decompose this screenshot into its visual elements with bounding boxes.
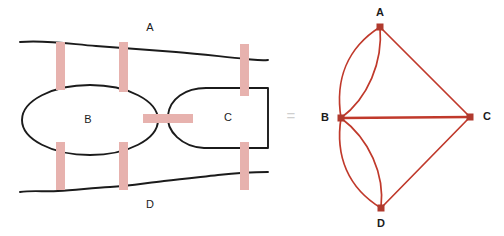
graph-vertex-a xyxy=(377,24,383,30)
bridge-a-b-east xyxy=(119,42,128,92)
graph-label-d: D xyxy=(377,217,385,229)
konigsberg-figure: A B C D = A xyxy=(0,0,504,236)
bridge-a-b-west xyxy=(56,42,65,90)
map-label-a: A xyxy=(146,21,154,33)
map-label-c: C xyxy=(224,111,232,123)
graph-label-b: B xyxy=(321,111,329,123)
bridge-b-c xyxy=(143,114,193,123)
graph-label-a: A xyxy=(376,6,384,18)
bridge-c-d xyxy=(240,142,249,190)
map-panel: A B C D xyxy=(20,21,268,210)
map-label-d: D xyxy=(146,198,154,210)
bridge-b-d-west xyxy=(56,142,65,190)
graph-vertex-b xyxy=(338,115,344,121)
figure-canvas: A B C D = A xyxy=(0,0,504,236)
graph-edge-bd-inner xyxy=(341,118,382,208)
map-label-b: B xyxy=(84,113,91,125)
graph-edge-cd xyxy=(381,117,470,208)
graph-edge-ac xyxy=(380,27,470,117)
graph-edge-bc xyxy=(341,117,470,118)
graph-label-c: C xyxy=(483,110,491,122)
graph-vertex-c xyxy=(467,114,473,120)
equals-sign: = xyxy=(287,107,296,124)
graph-panel: A B C D xyxy=(321,6,491,229)
bridge-b-d-east xyxy=(119,142,128,190)
bridge-a-c xyxy=(240,44,249,96)
graph-edge-ab-inner xyxy=(341,27,380,118)
graph-vertex-d xyxy=(378,205,384,211)
